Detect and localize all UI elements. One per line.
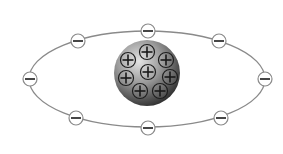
proton bbox=[133, 84, 148, 99]
electron bbox=[69, 111, 83, 125]
electron bbox=[71, 34, 85, 48]
electron bbox=[141, 121, 155, 135]
proton bbox=[141, 65, 156, 80]
proton bbox=[153, 84, 168, 99]
electron bbox=[212, 34, 226, 48]
proton bbox=[121, 53, 136, 68]
proton bbox=[119, 71, 134, 86]
proton bbox=[159, 53, 174, 68]
nucleus bbox=[114, 40, 180, 106]
proton bbox=[140, 45, 155, 60]
proton bbox=[163, 70, 178, 85]
atom-diagram bbox=[0, 0, 283, 154]
electron bbox=[258, 72, 272, 86]
electron bbox=[214, 111, 228, 125]
electron bbox=[23, 72, 37, 86]
electron bbox=[141, 24, 155, 38]
